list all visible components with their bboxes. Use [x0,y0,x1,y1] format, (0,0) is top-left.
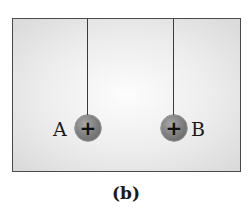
figure-caption: (b) [0,183,252,203]
sphere-a: + [75,115,101,141]
label-b: B [191,120,205,139]
plus-charge-icon: + [75,115,101,141]
diagram-frame: + A + B [12,18,241,172]
label-a: A [53,120,67,139]
sphere-b: + [161,115,187,141]
string-b [173,19,174,117]
plus-charge-icon: + [161,115,187,141]
string-a [87,19,88,117]
